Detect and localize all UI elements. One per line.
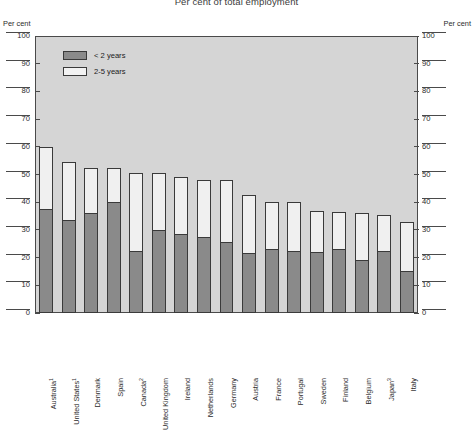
x-axis-label-sweden: Sweden [320,378,327,404]
y-tick-label-left-0: 0 [6,309,30,310]
bar-segment-under-2-years [242,253,256,313]
bar-segment-under-2-years [84,213,98,313]
y-axis-left-caption: Per cent [3,19,31,28]
bar-group [310,211,324,313]
x-axis-label-denmark: Denmark [94,378,101,408]
y-tick-label-right-20: 20 [422,254,446,255]
y-tick-label-left-40: 40 [6,198,30,199]
bar-group [220,180,234,313]
y-tick-label-left-10: 10 [6,281,30,282]
x-axis-label-united-kingdom: United Kingdom [162,378,169,430]
bar-group [107,168,121,313]
bar-segment-under-2-years [174,234,188,313]
bar-group [129,173,143,313]
chart-title: Per cent of total employment [0,0,473,7]
bar-group [287,202,301,313]
y-tick-label-right-80: 80 [422,87,446,88]
bar-segment-under-2-years [129,251,143,313]
y-tick-label-left-90: 90 [6,60,30,61]
bar-group [400,222,414,313]
y-tick-label-left-80: 80 [6,87,30,88]
bar-group [377,215,391,313]
y-tick-label-right-10: 10 [422,281,446,282]
x-axis-label-austria: Austria [252,378,259,401]
y-tick-label-right-90: 90 [422,60,446,61]
x-axis-label-portugal: Portugal [297,378,304,405]
y-tick-label-right-60: 60 [422,143,446,144]
bar-segment-under-2-years [220,242,234,313]
y-tick-label-right-30: 30 [422,226,446,227]
y-tick-label-left-50: 50 [6,171,30,172]
bar-group [332,212,346,313]
y-tick-label-right-100: 100 [422,32,446,33]
bar-segment-under-2-years [62,220,76,313]
y-axis-right-caption: Per cent [443,19,471,28]
bar-group [242,195,256,313]
y-tick-label-right-0: 0 [422,309,446,310]
bar-segment-under-2-years [197,237,211,313]
bar-group [84,168,98,313]
bar-segment-under-2-years [400,271,414,313]
bar-segment-under-2-years [39,209,53,313]
bar-segment-under-2-years [355,260,369,313]
x-axis-label-australia: Australia1 [49,378,58,409]
bar-group [62,162,76,313]
bar-segment-under-2-years [332,249,346,313]
bar-segment-under-2-years [107,202,121,313]
x-axis-label-japan: Japan3 [387,378,396,401]
x-axis-label-canada: Canada2 [139,378,148,406]
bar-group [265,202,279,313]
y-tick-label-left-100: 100 [6,32,30,33]
y-tick-label-right-70: 70 [422,115,446,116]
x-axis-label-netherlands: Netherlands [207,378,214,417]
y-tick-label-left-20: 20 [6,254,30,255]
x-axis-label-italy: Italy [410,378,417,391]
y-tick-label-left-60: 60 [6,143,30,144]
bar-group [197,180,211,313]
y-tick-label-right-40: 40 [422,198,446,199]
bar-series-container [35,36,418,313]
bar-segment-under-2-years [265,249,279,313]
x-axis-label-belgium: Belgium [365,378,372,404]
y-tick-label-right-50: 50 [422,171,446,172]
bar-group [152,173,166,313]
bar-segment-under-2-years [310,252,324,313]
bar-group [39,147,53,313]
x-axis-label-spain: Spain [117,378,124,397]
y-tick-label-left-70: 70 [6,115,30,116]
bar-segment-under-2-years [287,251,301,313]
bar-group [355,213,369,313]
x-axis-label-germany: Germany [230,378,237,408]
x-axis-label-france: France [275,378,282,401]
x-axis-label-united-states: United States1 [72,378,81,425]
x-axis-labels: Australia1United States1DenmarkSpainCana… [35,316,418,382]
bar-group [174,177,188,313]
x-axis-label-ireland: Ireland [184,378,191,400]
x-axis-label-finland: Finland [342,378,349,402]
bar-segment-under-2-years [377,251,391,313]
y-tick-label-left-30: 30 [6,226,30,227]
bar-segment-under-2-years [152,230,166,313]
